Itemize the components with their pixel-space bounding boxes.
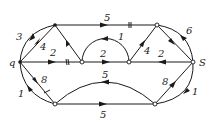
arrow-icon [66, 40, 70, 47]
label-qA-arc: 3 [16, 31, 22, 42]
arrow-icon [168, 38, 175, 45]
flow-network-diagram: 3 4 5 2 1 2 4 6 2 8 1 5 [0, 0, 210, 126]
node-B [155, 23, 159, 27]
label-DB: 4 [143, 45, 150, 56]
node-A [53, 23, 57, 27]
label-FS: 8 [162, 76, 168, 87]
label-AB: 5 [104, 12, 110, 23]
node-F [153, 102, 157, 106]
label-Eq-arc: 1 [18, 88, 24, 99]
node-C [80, 60, 84, 64]
label-FE-arc: 5 [102, 69, 108, 80]
label-SF-arc: 1 [192, 86, 198, 97]
label-CD: 2 [99, 48, 106, 59]
label-EF: 5 [100, 109, 106, 120]
label-qE: 8 [41, 74, 47, 85]
source-label: q [9, 57, 15, 68]
arrow-icon [100, 23, 108, 28]
arrow-icon [158, 60, 166, 65]
label-Aq: 4 [39, 41, 46, 52]
edge-F-E-arc [55, 82, 155, 104]
arrow-icon [101, 80, 109, 85]
label-SD: 2 [157, 48, 164, 59]
arrow-icon [48, 60, 56, 65]
node-q [18, 60, 22, 64]
sink-label: S [199, 57, 206, 68]
node-D [127, 60, 131, 64]
arrow-icon [102, 60, 110, 65]
label-SB-arc: 6 [186, 25, 193, 36]
label-DC-arc: 1 [118, 31, 124, 42]
cut-mark [66, 59, 67, 65]
cut-mark [68, 59, 69, 65]
arrow-icon [99, 102, 107, 107]
label-qC: 2 [49, 47, 56, 58]
node-S [191, 60, 195, 64]
node-E [53, 102, 57, 106]
